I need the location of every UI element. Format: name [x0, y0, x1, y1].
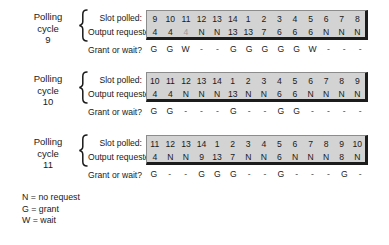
grant-or-wait-cell: G — [162, 105, 178, 117]
grant-or-wait-cell: - — [209, 105, 225, 117]
data-cell: 6 — [287, 87, 303, 101]
polling-cycle-block: Polling cycle 11 Slot polled: Output req… — [0, 131, 389, 187]
data-cell: 4 — [147, 87, 163, 101]
cycle-number: 9 — [22, 34, 74, 46]
grant-or-wait-cell: G — [225, 43, 241, 55]
data-cell: 1 — [225, 74, 241, 88]
data-cell: 13 — [194, 74, 210, 88]
data-cell: 4 — [147, 150, 163, 164]
grant-or-wait-cell: - — [194, 105, 210, 117]
data-cell: 13 — [209, 12, 225, 26]
grant-or-wait-cell: G — [289, 43, 305, 55]
grant-or-wait-cell: G — [273, 168, 289, 180]
data-cell: N — [209, 25, 225, 39]
slot-polled-row: 1112131412345678910 — [147, 137, 365, 151]
grant-or-wait-cell: - — [352, 105, 368, 117]
data-cell: 3 — [272, 12, 288, 26]
data-cell: 4 — [256, 137, 272, 151]
polling-data-box: 9101112131412345678 444NN13137666NNN — [146, 10, 368, 40]
grant-or-wait-cell: - — [241, 168, 257, 180]
data-cell: N — [334, 87, 350, 101]
caption-grant-or-wait: Grant or wait? — [88, 170, 142, 180]
grant-or-wait-cell: G — [225, 168, 241, 180]
output-requested-row: 444NN13137666NNN — [147, 25, 365, 39]
grant-or-wait-cell: - — [352, 168, 368, 180]
row-caption-column: Slot polled: Output requested: Grant or … — [88, 6, 142, 62]
grant-or-wait-cell: - — [178, 105, 194, 117]
caption-output-requested: Output requested: — [88, 152, 142, 162]
grant-or-wait-cell: G — [336, 168, 352, 180]
caption-grant-or-wait: Grant or wait? — [88, 107, 142, 117]
data-cell: 13 — [225, 87, 241, 101]
polling-cycle-block: Polling cycle 9 Slot polled: Output requ… — [0, 6, 389, 62]
data-cell: 8 — [318, 137, 334, 151]
data-cell: 10 — [147, 74, 163, 88]
grant-or-wait-row: G--GGG--G---G- — [146, 168, 368, 180]
data-cell: 7 — [225, 150, 241, 164]
row-caption-column: Slot polled: Output requested: Grant or … — [88, 131, 142, 187]
polling-data-box: 1112131412345678910 4NN9137NN6NNN8N — [146, 135, 368, 165]
data-cell: 11 — [147, 137, 163, 151]
data-cell: 12 — [194, 12, 210, 26]
cycle-label-line1: Polling — [22, 73, 74, 85]
grant-or-wait-cell: - — [336, 43, 352, 55]
output-requested-row: 4NN9137NN6NNN8N — [147, 150, 365, 164]
data-cell: 12 — [163, 137, 179, 151]
cycle-label: Polling cycle 10 — [22, 73, 74, 108]
data-cell: 7 — [256, 25, 272, 39]
data-cell: 6 — [318, 12, 334, 26]
grant-or-wait-cell: - — [305, 168, 321, 180]
data-cell: 6 — [272, 87, 288, 101]
data-cell: 2 — [240, 74, 256, 88]
data-cell: 2 — [225, 137, 241, 151]
grant-or-wait-cell: - — [352, 43, 368, 55]
slot-polled-row: 9101112131412345678 — [147, 12, 365, 26]
grant-or-wait-cell: G — [146, 43, 162, 55]
data-cell: N — [240, 150, 256, 164]
data-cell: 6 — [303, 74, 319, 88]
grant-or-wait-cell: - — [209, 43, 225, 55]
data-cell: N — [194, 87, 210, 101]
data-cell: N — [240, 87, 256, 101]
grant-or-wait-cell: - — [305, 105, 321, 117]
caption-output-requested: Output requested: — [88, 27, 142, 37]
data-cell: N — [178, 150, 194, 164]
data-cell: 6 — [303, 25, 319, 39]
grant-or-wait-cell: G — [273, 43, 289, 55]
cycle-number: 10 — [22, 96, 74, 108]
data-cell: 6 — [272, 25, 288, 39]
data-cell: 8 — [350, 12, 366, 26]
grant-or-wait-cell: G — [146, 168, 162, 180]
data-cell: 6 — [272, 150, 288, 164]
grant-or-wait-cell: - — [241, 105, 257, 117]
data-cell: 2 — [256, 12, 272, 26]
data-cell: N — [350, 87, 366, 101]
data-cell: N — [178, 87, 194, 101]
data-cell: N — [303, 87, 319, 101]
data-cell: 7 — [303, 137, 319, 151]
caption-slot-polled: Slot polled: — [88, 138, 142, 148]
legend: N = no request G = grant W = wait — [22, 192, 80, 227]
data-cell: 7 — [334, 12, 350, 26]
data-cell: 9 — [334, 137, 350, 151]
caption-slot-polled: Slot polled: — [88, 75, 142, 85]
data-cell: 1 — [209, 137, 225, 151]
grant-or-wait-cell: - — [194, 43, 210, 55]
cycle-label-line2: cycle — [22, 23, 74, 35]
grant-or-wait-cell: G — [209, 168, 225, 180]
data-cell: 4 — [272, 74, 288, 88]
data-cell: N — [318, 150, 334, 164]
data-cell: 11 — [163, 74, 179, 88]
grant-or-wait-cell: - — [257, 105, 273, 117]
data-cell: 3 — [240, 137, 256, 151]
cycle-label: Polling cycle 9 — [22, 11, 74, 46]
cycle-label-line1: Polling — [22, 11, 74, 23]
data-cell: N — [318, 25, 334, 39]
data-cell: N — [303, 150, 319, 164]
data-cell: 9 — [147, 12, 163, 26]
data-cell: 5 — [303, 12, 319, 26]
data-cell: 4 — [163, 25, 179, 39]
caption-grant-or-wait: Grant or wait? — [88, 45, 142, 55]
data-cell: 4 — [163, 87, 179, 101]
grant-or-wait-cell: G — [194, 168, 210, 180]
